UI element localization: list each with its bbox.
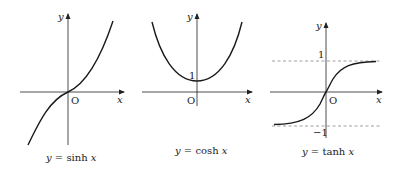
- hyperbolic-functions-figure: y x O y = sinh x y x O 1 y = cosh x y x …: [0, 0, 400, 174]
- x-axis-label: x: [245, 94, 251, 105]
- x-axis-label: x: [117, 94, 123, 105]
- caption-cosh: y = cosh x: [174, 145, 228, 156]
- tanh-curve: [274, 62, 376, 125]
- caption-sinh: y = sinh x: [45, 152, 97, 163]
- y-axis-label: y: [186, 11, 193, 22]
- y-axis-label: y: [315, 20, 322, 31]
- tick-label-minus-1: −1: [313, 127, 328, 138]
- y-axis-label: y: [57, 11, 64, 22]
- tanh-graph: y x O 1 −1 y = tanh x: [270, 20, 382, 157]
- origin-label: O: [329, 95, 337, 106]
- cosh-graph: y x O 1 y = cosh x: [142, 11, 252, 156]
- origin-label: O: [187, 95, 195, 106]
- x-axis-label: x: [376, 94, 382, 105]
- tick-label-1: 1: [189, 70, 195, 81]
- sinh-curve: [28, 21, 113, 145]
- origin-label: O: [71, 95, 79, 106]
- tick-label-1: 1: [318, 49, 324, 60]
- caption-tanh: y = tanh x: [301, 146, 354, 157]
- sinh-graph: y x O y = sinh x: [20, 11, 124, 163]
